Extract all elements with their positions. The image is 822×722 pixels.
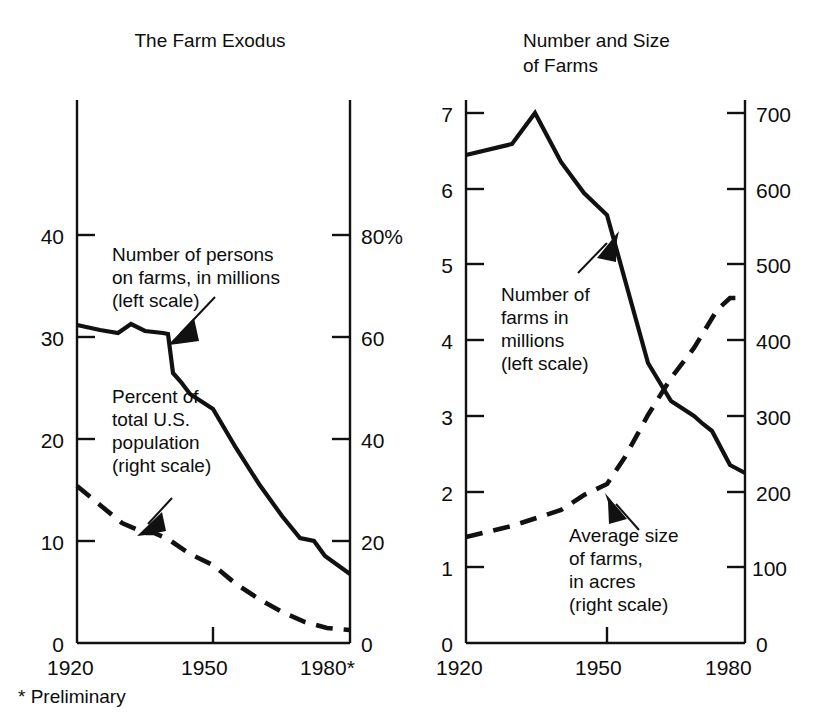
- x-axis-label-1980: 1980*: [300, 657, 355, 678]
- footnote-preliminary: * Preliminary: [18, 686, 126, 708]
- left-axis-label-30: 30: [16, 328, 64, 349]
- left-axis-label-4: 4: [413, 331, 453, 352]
- size-arrowhead-icon: [605, 493, 627, 524]
- left-axis-label-40: 40: [16, 226, 64, 247]
- x-axis-label-1950: 1950: [181, 657, 228, 678]
- figure-root: The Farm Exodus: [0, 0, 822, 722]
- right-axis-label-0: 0: [756, 634, 768, 655]
- left-axis-label-1: 1: [413, 558, 453, 579]
- persons-arrowhead-icon: [168, 318, 199, 345]
- x-axis-label-1980: 1980: [705, 657, 752, 678]
- left-axis-label-7: 7: [413, 104, 453, 125]
- left-axis-label-2: 2: [413, 483, 453, 504]
- left-axis-label-10: 10: [16, 532, 64, 553]
- annotation-number-of-farms: Number of farms in millions (left scale): [501, 283, 661, 375]
- right-axis-label-40: 40: [361, 430, 384, 451]
- farm-exodus-plot: [0, 0, 411, 722]
- right-axis-label-500: 500: [756, 255, 791, 276]
- left-axis-label-0: 0: [16, 634, 64, 655]
- right-axis-label-20: 20: [361, 532, 384, 553]
- series-percent-us-population: [77, 486, 350, 630]
- left-axis-label-3: 3: [413, 407, 453, 428]
- right-axis-label-100: 100: [752, 558, 787, 579]
- left-axis-label-0: 0: [413, 634, 453, 655]
- farms-arrowhead-icon: [597, 231, 619, 262]
- percent-arrowhead-icon: [137, 512, 166, 536]
- right-axis-label-300: 300: [756, 407, 791, 428]
- right-axis-label-60: 60: [361, 328, 384, 349]
- x-axis-label-1920: 1920: [436, 657, 483, 678]
- right-axis-label-200: 200: [756, 483, 791, 504]
- right-axis-label-600: 600: [756, 180, 791, 201]
- x-axis-label-1950: 1950: [575, 657, 622, 678]
- left-axis-label-20: 20: [16, 430, 64, 451]
- x-axis-label-1920: 1920: [47, 657, 94, 678]
- right-axis-label-80: 80%: [361, 226, 403, 247]
- chart-panel-number-size-farms: Number and Size of Farms: [411, 0, 822, 722]
- chart-panel-farm-exodus: The Farm Exodus: [0, 0, 411, 722]
- right-axis-label-400: 400: [756, 331, 791, 352]
- left-axis-label-6: 6: [413, 180, 453, 201]
- annotation-percent-population: Percent of total U.S. population (right …: [112, 385, 282, 477]
- left-axis-label-5: 5: [413, 255, 453, 276]
- annotation-persons-on-farms: Number of persons on farms, in millions …: [112, 243, 332, 312]
- right-axis-label-700: 700: [756, 104, 791, 125]
- right-axis-label-0: 0: [361, 634, 373, 655]
- annotation-average-farm-size: Average size of farms, in acres (right s…: [569, 524, 749, 616]
